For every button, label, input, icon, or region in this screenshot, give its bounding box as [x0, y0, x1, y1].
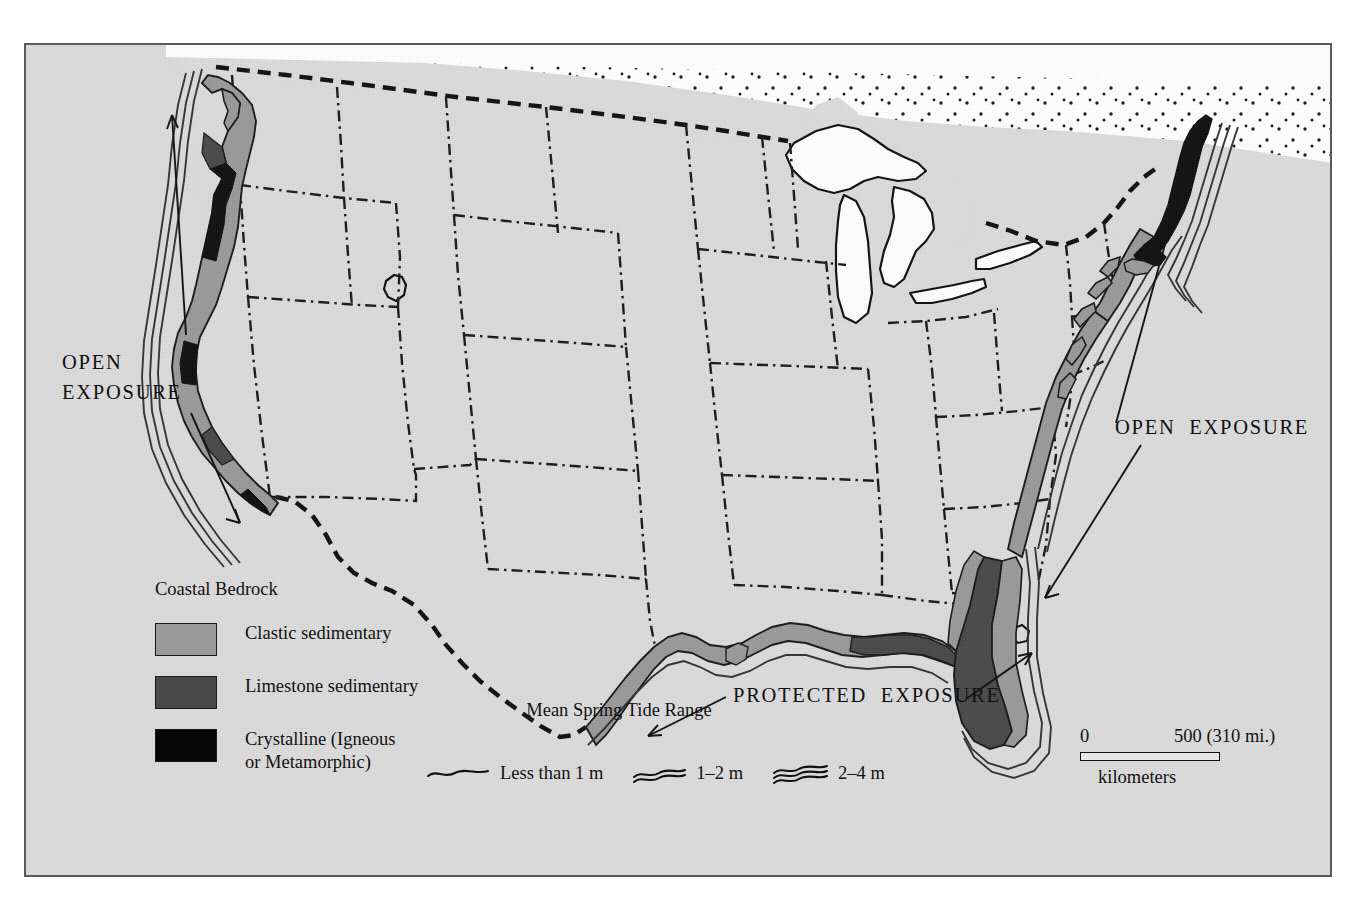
swatch-crystalline: [155, 729, 217, 762]
legend-label-crystalline: Crystalline (Igneous or Metamorphic): [245, 728, 396, 773]
label-open-exposure-east: OPEN EXPOSURE: [1115, 413, 1309, 443]
legend-tide-items: Less than 1 m 1–2 m 2–4 m: [425, 759, 895, 787]
swatch-clastic-sedimentary: [155, 623, 217, 656]
great-salt-lake: [384, 275, 406, 301]
map-plate: OPEN EXPOSURE OPEN EXPOSURE PROTECTED EX…: [24, 43, 1332, 877]
tide-symbol-3-lines: [771, 759, 829, 787]
tide-symbol-2-lines: [631, 761, 687, 785]
tide-label-less-than-1m: Less than 1 m: [500, 763, 603, 784]
legend-mean-spring-tide-range: Mean Spring Tide Range Less than 1 m 1–2…: [425, 700, 895, 787]
scale-max-label: 500 (310 mi.): [1174, 726, 1275, 747]
legend-tide-title: Mean Spring Tide Range: [439, 700, 799, 721]
legend-bedrock-title: Coastal Bedrock: [155, 579, 485, 600]
legend-label-limestone-sedimentary: Limestone sedimentary: [245, 675, 418, 698]
tide-label-2-4m: 2–4 m: [838, 763, 885, 784]
tide-symbol-1-line: [425, 762, 491, 784]
tide-label-1-2m: 1–2 m: [696, 763, 743, 784]
label-open-exposure-west: OPEN EXPOSURE: [62, 348, 182, 407]
legend-row-clastic-sedimentary: Clastic sedimentary: [155, 622, 485, 656]
legend-label-clastic-sedimentary: Clastic sedimentary: [245, 622, 391, 645]
scale-rule: [1080, 752, 1220, 761]
tide-item-2-4m: 2–4 m: [771, 759, 885, 787]
scale-min-label: 0: [1080, 726, 1089, 747]
swatch-limestone-sedimentary: [155, 676, 217, 709]
scale-unit-label: kilometers: [1098, 767, 1310, 788]
florida-bedrock: [948, 547, 1051, 778]
tide-item-less-than-1m: Less than 1 m: [425, 762, 603, 784]
scale-numbers: 0 500 (310 mi.): [1080, 726, 1310, 750]
figure-root: OPEN EXPOSURE OPEN EXPOSURE PROTECTED EX…: [0, 0, 1364, 907]
tide-item-1-2m: 1–2 m: [631, 761, 743, 785]
scale-bar: 0 500 (310 mi.) kilometers: [1080, 726, 1310, 788]
